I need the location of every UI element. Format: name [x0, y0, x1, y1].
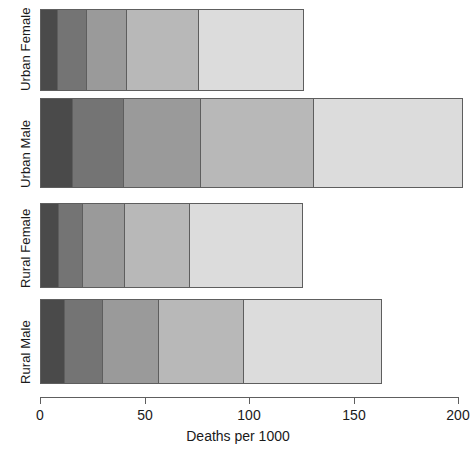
- bar-segment-55-59[interactable]: [58, 10, 86, 90]
- bar-rural-female[interactable]: [40, 203, 303, 288]
- category-label-text: Urban Male: [18, 120, 33, 188]
- bar-segment-50-54[interactable]: [41, 10, 58, 90]
- plot-area: Urban Female Urban Male Rural Female Rur…: [0, 0, 476, 462]
- x-axis-tick-label: 50: [137, 407, 153, 423]
- bar-segment-55-59[interactable]: [65, 300, 103, 383]
- bar-segment-70-74[interactable]: [190, 204, 303, 287]
- bar-segment-65-69[interactable]: [127, 10, 200, 90]
- bar-segment-70-74[interactable]: [199, 10, 303, 90]
- bar-segment-60-64[interactable]: [83, 204, 125, 287]
- x-axis-tick: [40, 397, 41, 404]
- bar-urban-female[interactable]: [40, 9, 304, 91]
- bar-segment-55-59[interactable]: [73, 99, 124, 187]
- x-axis-title: Deaths per 1000: [0, 428, 476, 444]
- x-axis-tick-label: 200: [446, 407, 469, 423]
- bar-segment-65-69[interactable]: [159, 300, 244, 383]
- x-axis-tick: [249, 397, 250, 404]
- x-axis-tick: [145, 397, 146, 404]
- bar-segment-70-74[interactable]: [314, 99, 462, 187]
- bar-segment-60-64[interactable]: [124, 99, 201, 187]
- bar-segment-65-69[interactable]: [201, 99, 315, 187]
- category-label-text: Rural Female: [18, 209, 33, 288]
- x-axis-tick-label: 150: [342, 407, 365, 423]
- chart-container: Urban Female Urban Male Rural Female Rur…: [0, 0, 476, 462]
- bar-segment-50-54[interactable]: [41, 300, 65, 383]
- bar-segment-55-59[interactable]: [59, 204, 83, 287]
- x-axis-tick: [458, 397, 459, 404]
- bar-segment-50-54[interactable]: [41, 99, 73, 187]
- bar-segment-50-54[interactable]: [41, 204, 59, 287]
- x-axis-tick: [354, 397, 355, 404]
- bar-rural-male[interactable]: [40, 299, 382, 384]
- category-label-text: Rural Male: [18, 320, 33, 384]
- x-axis-tick-label: 100: [237, 407, 260, 423]
- bar-urban-male[interactable]: [40, 98, 463, 188]
- bar-segment-60-64[interactable]: [87, 10, 127, 90]
- x-axis-tick-label: 0: [36, 407, 44, 423]
- bar-segment-65-69[interactable]: [125, 204, 189, 287]
- bar-segment-60-64[interactable]: [103, 300, 159, 383]
- category-label-text: Urban Female: [18, 7, 33, 91]
- bar-segment-70-74[interactable]: [244, 300, 381, 383]
